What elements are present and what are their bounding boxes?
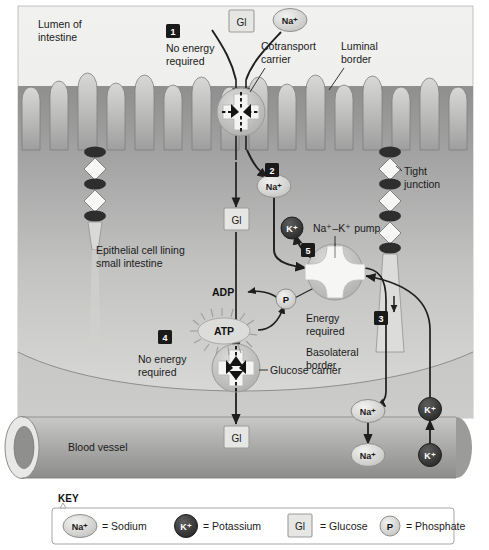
adp-label: ADP <box>212 286 234 298</box>
key-phosphate-symbol: P <box>387 521 394 532</box>
energy-required-line1: Energy <box>306 312 340 324</box>
luminal-border-label-line2: border <box>341 53 372 65</box>
sodium-badge-cell: Na⁺ <box>257 175 291 198</box>
luminal-border-label-line1: Luminal <box>341 40 378 52</box>
potassium-badge-vessel-label: K⁺ <box>424 451 436 461</box>
glucose-carrier <box>212 344 260 392</box>
epithelial-label-line2: small intestine <box>96 257 163 269</box>
step-badge-4: 4 <box>158 330 172 344</box>
phosphate-badge-label: P <box>283 294 290 305</box>
lumen-label-line2: intestine <box>38 31 77 43</box>
key-sodium-symbol: Na⁺ <box>72 522 89 532</box>
lumen-label-line1: Lumen of <box>38 18 82 30</box>
step-badge-1-label: 1 <box>170 27 175 37</box>
glucose-badge-cell-label: Gl <box>232 215 242 226</box>
step-badge-2: 2 <box>265 163 279 177</box>
step1-caption-line2: required <box>166 55 205 67</box>
sodium-badge-vessel-label: Na⁺ <box>360 451 377 461</box>
step-badge-5: 5 <box>301 243 315 257</box>
sodium-badge-interstitial: Na⁺ <box>351 400 385 423</box>
sodium-badge-interstitial-label: Na⁺ <box>360 407 377 417</box>
step4-caption-line1: No energy <box>138 353 187 365</box>
glucose-badge-lumen-label: Gl <box>237 17 247 28</box>
sodium-badge-vessel: Na⁺ <box>351 444 385 467</box>
glucose-carrier-label: Glucose carrier <box>270 364 342 376</box>
key-glucose-text: = Glucose <box>320 520 368 532</box>
step1-caption-line1: No energy <box>166 42 215 54</box>
sodium-badge-cell-label: Na⁺ <box>266 182 283 192</box>
cotransport-carrier-label-line1: Cotransport <box>261 40 316 52</box>
potassium-badge-vessel: K⁺ <box>419 444 442 467</box>
potassium-badge-cell-label: K⁺ <box>286 224 298 234</box>
glucose-badge-lumen: Gl <box>229 10 254 32</box>
key-potassium-symbol: K⁺ <box>180 522 192 532</box>
step4-caption-line2: required <box>138 366 177 378</box>
transepithelial-transport-diagram: Gl Na⁺ Gl Na⁺ K⁺ P Gl Na⁺ Na⁺ K⁺ <box>0 0 489 550</box>
na-k-pump-label: Na⁺–K⁺ pump <box>313 222 381 234</box>
glucose-badge-vessel: Gl <box>224 426 249 448</box>
glucose-badge-cell: Gl <box>224 208 249 230</box>
key-legend: KEY Na⁺ = Sodium K⁺ = Potassium Gl = Glu… <box>52 493 465 544</box>
cotransport-carrier <box>217 88 265 136</box>
step-badge-5-label: 5 <box>305 246 310 256</box>
step-badge-4-label: 4 <box>162 333 167 343</box>
tight-junction-label-line2: junction <box>403 178 440 190</box>
atp-label: ATP <box>214 325 234 337</box>
step-badge-1: 1 <box>166 24 180 38</box>
cotransport-carrier-label-line2: carrier <box>261 53 291 65</box>
key-heading: KEY <box>58 493 79 504</box>
step-badge-3-label: 3 <box>378 314 383 324</box>
key-sodium-text: = Sodium <box>102 520 147 532</box>
potassium-badge-cell: K⁺ <box>281 217 303 239</box>
step-badge-2-label: 2 <box>269 166 274 176</box>
potassium-badge-interstitial: K⁺ <box>419 398 442 421</box>
key-phosphate-text: = Phosphate <box>406 520 465 532</box>
sodium-badge-lumen-label: Na⁺ <box>282 16 299 26</box>
key-potassium-text: = Potassium <box>203 520 261 532</box>
epithelial-label-line1: Epithelial cell lining <box>96 244 185 256</box>
blood-vessel-label: Blood vessel <box>68 441 128 453</box>
glucose-badge-vessel-label: Gl <box>232 433 242 444</box>
key-glucose-symbol: Gl <box>295 521 305 532</box>
energy-required-line2: required <box>306 325 345 337</box>
sodium-badge-lumen: Na⁺ <box>273 9 307 32</box>
step-badge-3: 3 <box>374 311 388 325</box>
potassium-badge-interstitial-label: K⁺ <box>424 405 436 415</box>
basolateral-border-line1: Basolateral <box>306 346 359 358</box>
tight-junction-label-line1: Tight <box>404 165 427 177</box>
figure-container: Gl Na⁺ Gl Na⁺ K⁺ P Gl Na⁺ Na⁺ K⁺ <box>0 0 489 550</box>
phosphate-badge: P <box>276 289 296 309</box>
